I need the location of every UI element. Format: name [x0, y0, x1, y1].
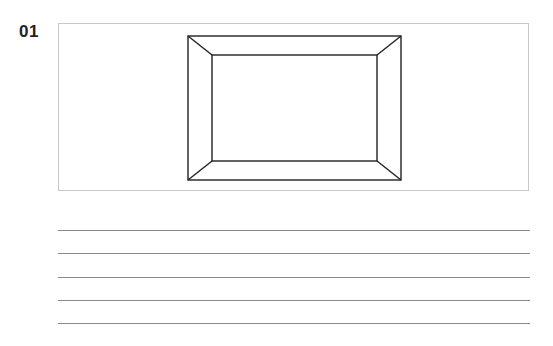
bevel-top-right — [377, 36, 401, 55]
bevel-bottom-right — [377, 161, 401, 180]
bevel-top-left — [188, 36, 212, 55]
answer-line — [58, 230, 530, 231]
inner-frame-rect — [212, 55, 377, 161]
bevel-bottom-left — [188, 161, 212, 180]
answer-line — [58, 300, 530, 301]
outer-frame-rect — [188, 36, 401, 180]
answer-line — [58, 323, 530, 324]
answer-line — [58, 253, 530, 254]
frame-drawing — [0, 0, 553, 346]
answer-line — [58, 277, 530, 278]
